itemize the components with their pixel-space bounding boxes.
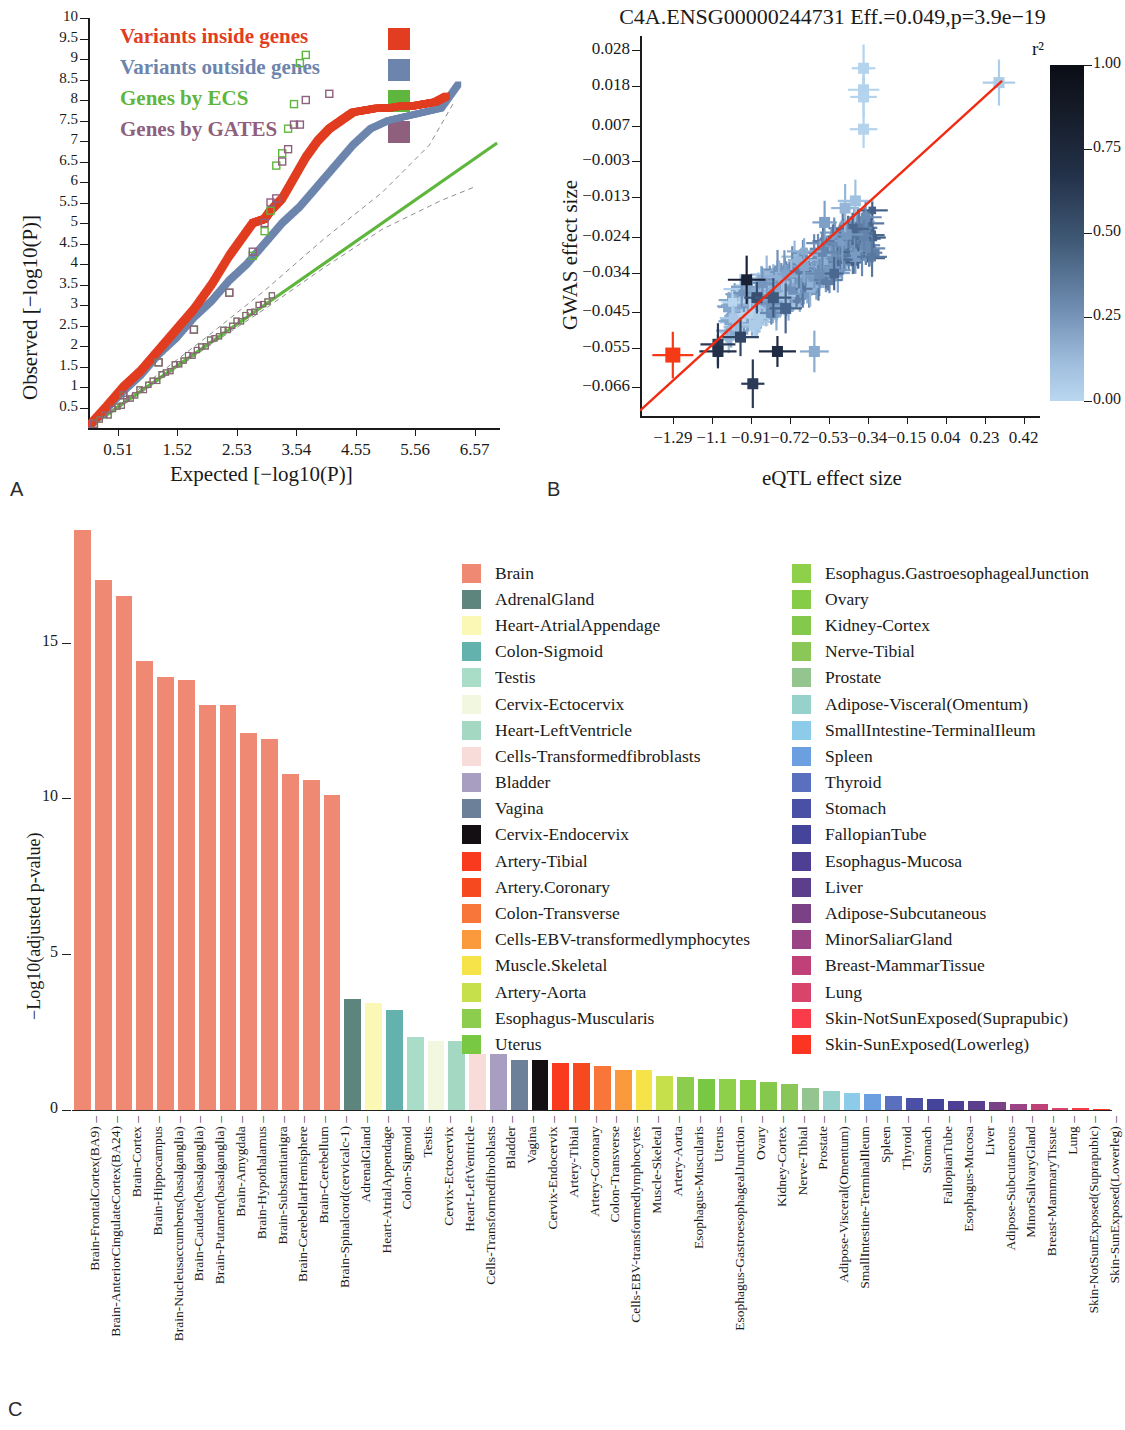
legend-item-right-14: MinorSaliarGland bbox=[792, 927, 1089, 953]
panel-a-y-tick-label: 6 bbox=[26, 172, 78, 189]
panel-a-y-tick bbox=[80, 39, 88, 40]
panel-a-y-tick-label: 7.5 bbox=[26, 111, 78, 128]
effect-size-data-layer bbox=[640, 36, 1040, 416]
bar-16 bbox=[407, 1037, 424, 1110]
x-tick-label-49: Skin-SunExposed(Lowerleg) – bbox=[1107, 1116, 1123, 1284]
legend-swatch-left-13 bbox=[462, 904, 481, 923]
legend-item-right-12: Liver bbox=[792, 874, 1089, 900]
x-tick-label-35: Prostate – bbox=[815, 1116, 831, 1170]
x-tick-label-38: Spleen – bbox=[878, 1116, 894, 1163]
panel-c-y-axis-title: −Log10(adjusted p-value) bbox=[24, 832, 45, 1020]
legend-label-left-17: Esophagus-Muscularis bbox=[495, 1008, 654, 1029]
bar-37 bbox=[844, 1093, 861, 1110]
legend-label-left-12: Artery.Coronary bbox=[495, 877, 610, 898]
bar-13 bbox=[344, 999, 361, 1110]
panel-b-y-tick bbox=[632, 273, 640, 274]
bar-14 bbox=[365, 1003, 382, 1110]
legend-swatch-right-17 bbox=[792, 1009, 811, 1028]
bar-26 bbox=[615, 1070, 632, 1111]
panel-a-y-tick-label: 2 bbox=[26, 336, 78, 353]
bar-32 bbox=[740, 1080, 757, 1110]
colorbar-tick-4 bbox=[1084, 401, 1092, 402]
legend-column-left: BrainAdrenalGlandHeart-AtrialAppendageCo… bbox=[462, 560, 750, 1058]
bar-19 bbox=[469, 1054, 486, 1110]
bar-41 bbox=[927, 1099, 944, 1110]
panel-b-x-tick bbox=[985, 416, 986, 424]
panel-a-x-tick-label: 6.57 bbox=[449, 440, 501, 460]
legend-swatch-left-18 bbox=[462, 1035, 481, 1054]
panel-b-y-tick-label: −0.045 bbox=[554, 301, 630, 321]
legend-label-right-9: Stomach bbox=[825, 798, 886, 819]
legend-label-left-9: Vagina bbox=[495, 798, 544, 819]
x-tick-label-10: Brain-CerebellarHemisphere – bbox=[295, 1116, 311, 1282]
panel-a-y-tick bbox=[80, 387, 88, 388]
legend-label-left-18: Uterus bbox=[495, 1034, 542, 1055]
panel-a-y-tick bbox=[80, 408, 88, 409]
bar-44 bbox=[989, 1102, 1006, 1110]
panel-a-qq-plot: Observed [−log10(P)] Expected [−log10(P)… bbox=[0, 0, 540, 500]
x-tick-label-33: Kidney-Cortex – bbox=[774, 1116, 790, 1207]
legend-swatch-left-3 bbox=[462, 642, 481, 661]
x-tick-label-16: Testis – bbox=[420, 1116, 436, 1157]
bar-5 bbox=[178, 680, 195, 1110]
x-tick-label-20: Bladder – bbox=[503, 1116, 519, 1169]
panel-a-y-tick bbox=[80, 80, 88, 81]
colorbar-tick-label-3: 0.25 bbox=[1093, 306, 1121, 324]
bar-30 bbox=[698, 1079, 715, 1110]
panel-a-x-tick bbox=[475, 428, 476, 436]
colorbar-tick-label-1: 0.75 bbox=[1093, 138, 1121, 156]
panel-c-y-tick bbox=[62, 643, 71, 644]
colorbar-tick-1 bbox=[1084, 149, 1092, 150]
legend-swatch-left-4 bbox=[462, 668, 481, 687]
legend-swatch-left-7 bbox=[462, 747, 481, 766]
legend-label-right-4: Prostate bbox=[825, 667, 881, 688]
legend-label-right-15: Breast-MammarTissue bbox=[825, 955, 985, 976]
panel-a-x-tick bbox=[118, 428, 119, 436]
panel-a-y-tick-label: 6.5 bbox=[26, 152, 78, 169]
legend-item-right-11: Esophagus-Mucosa bbox=[792, 848, 1089, 874]
legend-item-right-18: Skin-SunExposed(Lowerleg) bbox=[792, 1031, 1089, 1057]
panel-a-x-tick bbox=[415, 428, 416, 436]
bar-3 bbox=[136, 661, 153, 1110]
panel-a-y-tick-label: 10 bbox=[26, 8, 78, 25]
legend-label-left-13: Colon-Transverse bbox=[495, 903, 620, 924]
legend-label-right-5: Adipose-Visceral(Omentum) bbox=[825, 694, 1028, 715]
panel-a-x-tick-label: 1.52 bbox=[151, 440, 203, 460]
bar-10 bbox=[282, 774, 299, 1111]
x-tick-label-27: Muscle-Skeletal – bbox=[649, 1116, 665, 1214]
bar-20 bbox=[490, 1054, 507, 1110]
legend-item-left-16: Artery-Aorta bbox=[462, 979, 750, 1005]
panel-a-x-axis-title: Expected [−log10(P)] bbox=[170, 462, 353, 487]
panel-a-y-tick bbox=[80, 141, 88, 142]
colorbar-tick-label-4: 0.00 bbox=[1093, 390, 1121, 408]
bar-34 bbox=[781, 1084, 798, 1110]
x-tick-label-5: Brain-Caudate(basalganglia) – bbox=[191, 1116, 207, 1281]
panel-b-x-tick bbox=[868, 416, 869, 424]
x-tick-label-22: Cervix-Endocervix – bbox=[545, 1116, 561, 1230]
panel-b-y-tick bbox=[632, 50, 640, 51]
panel-a-y-tick bbox=[80, 264, 88, 265]
x-tick-label-2: Brain-Cortex – bbox=[129, 1116, 145, 1197]
legend-label-right-14: MinorSaliarGland bbox=[825, 929, 952, 950]
legend-swatch-left-14 bbox=[462, 930, 481, 949]
panel-b-effect-size-scatter: C4A.ENSG00000244731 Eff.=0.049,p=3.9e−19… bbox=[540, 0, 1125, 500]
x-tick-label-40: Stomach – bbox=[919, 1116, 935, 1173]
panel-a-y-tick-label: 8.5 bbox=[26, 70, 78, 87]
legend-swatch-left-9 bbox=[462, 799, 481, 818]
panel-a-y-tick bbox=[80, 162, 88, 163]
legend-item-right-4: Prostate bbox=[792, 665, 1089, 691]
panel-a-x-tick-label: 4.55 bbox=[330, 440, 382, 460]
legend-item-right-9: Stomach bbox=[792, 796, 1089, 822]
panel-a-y-tick-label: 1.5 bbox=[26, 357, 78, 374]
legend-swatch-right-11 bbox=[792, 852, 811, 871]
legend-swatch-left-0 bbox=[462, 564, 481, 583]
panel-c-tissue-enrichment: −Log10(adjusted p-value) BrainAdrenalGla… bbox=[0, 500, 1125, 1430]
x-tick-label-21: Vagina – bbox=[524, 1116, 540, 1164]
panel-a-y-tick bbox=[80, 305, 88, 306]
panel-b-y-tick-label: −0.034 bbox=[554, 262, 630, 282]
bar-8 bbox=[240, 733, 257, 1110]
panel-a-y-tick-label: 4.5 bbox=[26, 234, 78, 251]
legend-swatch-left-12 bbox=[462, 878, 481, 897]
panel-a-y-tick bbox=[80, 326, 88, 327]
colorbar-tick-label-2: 0.50 bbox=[1093, 222, 1121, 240]
